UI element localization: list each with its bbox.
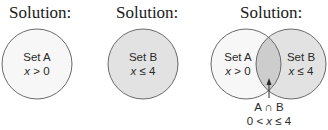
- intersection-condition: 0 < x ≤ 4: [247, 115, 292, 127]
- set-a-label: Set A: [23, 51, 51, 63]
- set-a-label: Set A: [224, 51, 252, 63]
- intersection-label: A ∩ B: [254, 101, 284, 113]
- panel-title: Solution:: [240, 3, 302, 22]
- set-a-condition: x > 0: [23, 65, 49, 77]
- set-b-circle: [108, 29, 178, 99]
- set-b-label: Set B: [287, 51, 315, 63]
- panel-set-b: Solution: Set B x ≤ 4: [108, 3, 178, 99]
- panel-intersection: Solution: Set A x > 0 Set B x ≤ 4 A ∩ B …: [211, 3, 326, 127]
- set-b-condition: x ≤ 4: [130, 65, 156, 77]
- set-a-condition: x > 0: [224, 65, 250, 77]
- panel-set-a: Solution: Set A x > 0: [2, 3, 72, 99]
- set-b-label: Set B: [129, 51, 157, 63]
- set-b-condition: x ≤ 4: [288, 65, 314, 77]
- venn-diagram-figure: Solution: Set A x > 0 Solution: Set B x …: [0, 0, 328, 130]
- set-a-circle: [2, 29, 72, 99]
- panel-title: Solution:: [116, 3, 178, 22]
- panel-title: Solution:: [9, 3, 71, 22]
